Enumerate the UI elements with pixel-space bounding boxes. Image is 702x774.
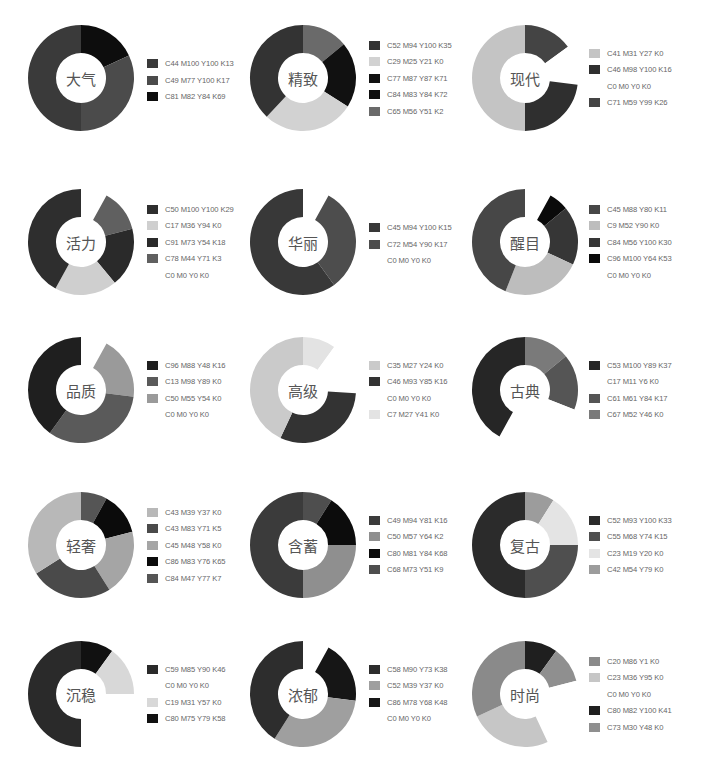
legend-item: C45 M48 Y58 K0 (147, 537, 225, 554)
legend-item: C43 M83 Y71 K5 (147, 520, 225, 537)
legend-label: C80 M82 Y100 K41 (607, 706, 672, 715)
donut-center-label: 华丽 (273, 232, 333, 253)
color-swatch (147, 698, 158, 707)
color-swatch (147, 557, 158, 566)
color-swatch (147, 361, 158, 370)
legend-item: C96 M88 Y48 K16 (147, 357, 225, 374)
legend-item: C49 M77 Y100 K17 (147, 72, 234, 89)
legend-item: C46 M98 Y100 K16 (589, 62, 672, 79)
donut-center-label: 浓郁 (273, 684, 333, 705)
color-swatch (147, 254, 158, 263)
legend-label: C50 M55 Y54 K0 (165, 394, 221, 403)
legend: C44 M100 Y100 K13C49 M77 Y100 K17C81 M82… (147, 55, 234, 105)
legend-item: C0 M0 Y0 K0 (147, 267, 234, 284)
color-swatch (369, 410, 380, 419)
legend: C49 M94 Y81 K16C50 M57 Y64 K2C80 M81 Y84… (369, 512, 447, 578)
legend-item: C0 M0 Y0 K0 (147, 678, 225, 695)
legend: C45 M94 Y100 K15C72 M54 Y90 K17C0 M0 Y0 … (369, 219, 452, 269)
legend-label: C80 M75 Y79 K58 (165, 714, 225, 723)
legend-item: C55 M68 Y74 K15 (589, 529, 672, 546)
legend-label: C84 M47 Y77 K7 (165, 574, 221, 583)
legend-label: C41 M31 Y27 K0 (607, 49, 663, 58)
legend-item: C7 M27 Y41 K0 (369, 407, 447, 424)
donut-center-label: 时尚 (495, 684, 555, 705)
legend-label: C53 M100 Y89 K37 (607, 361, 672, 370)
legend-item: C50 M55 Y54 K0 (147, 390, 225, 407)
donut-center-label: 现代 (495, 68, 555, 89)
legend-label: C19 M31 Y57 K0 (165, 698, 221, 707)
color-swatch (589, 532, 600, 541)
legend: C20 M86 Y1 K0C23 M36 Y95 K0C0 M0 Y0 K0C8… (589, 653, 672, 736)
legend-label: C78 M44 Y71 K3 (165, 254, 221, 263)
legend-item: C84 M47 Y77 K7 (147, 570, 225, 587)
legend-item: C13 M98 Y89 K0 (147, 374, 225, 391)
legend-item: C29 M25 Y21 K0 (369, 53, 452, 70)
legend-label: C45 M48 Y58 K0 (165, 541, 221, 550)
legend-label: C0 M0 Y0 K0 (387, 714, 431, 723)
legend-item: C53 M100 Y89 K37 (589, 357, 672, 374)
legend-item: C41 M31 Y27 K0 (589, 45, 672, 62)
color-swatch (589, 565, 600, 574)
legend-item: C42 M54 Y79 K0 (589, 562, 672, 579)
legend-item: C9 M52 Y90 K0 (589, 217, 672, 234)
color-swatch (369, 361, 380, 370)
legend-label: C13 M98 Y89 K0 (165, 377, 221, 386)
legend-label: C46 M93 Y85 K16 (387, 377, 447, 386)
legend-item: C44 M100 Y100 K13 (147, 55, 234, 72)
legend: C35 M27 Y24 K0C46 M93 Y85 K16C0 M0 Y0 K0… (369, 357, 447, 423)
legend-label: C29 M25 Y21 K0 (387, 57, 443, 66)
color-swatch (369, 516, 380, 525)
legend-item: C23 M19 Y20 K0 (589, 545, 672, 562)
color-swatch (147, 221, 158, 230)
legend-item: C50 M57 Y64 K2 (369, 529, 447, 546)
legend-item: C52 M94 Y100 K35 (369, 37, 452, 54)
legend-item: C58 M90 Y73 K38 (369, 661, 447, 678)
legend-label: C77 M87 Y87 K71 (387, 74, 447, 83)
legend-label: C84 M83 Y84 K72 (387, 90, 447, 99)
legend-label: C49 M94 Y81 K16 (387, 516, 447, 525)
legend-label: C67 M52 Y46 K0 (607, 410, 663, 419)
legend-item: C45 M94 Y100 K15 (369, 219, 452, 236)
color-swatch (369, 565, 380, 574)
legend-label: C71 M59 Y99 K26 (607, 98, 667, 107)
color-swatch (147, 524, 158, 533)
legend-label: C50 M57 Y64 K2 (387, 532, 443, 541)
legend-item: C52 M39 Y37 K0 (369, 678, 447, 695)
legend-label: C65 M56 Y51 K2 (387, 107, 443, 116)
color-swatch (147, 76, 158, 85)
legend: C43 M39 Y37 K0C43 M83 Y71 K5C45 M48 Y58 … (147, 504, 225, 587)
legend-item: C71 M59 Y99 K26 (589, 95, 672, 112)
legend-label: C0 M0 Y0 K0 (165, 681, 209, 690)
donut-center-label: 精致 (273, 68, 333, 89)
legend-label: C46 M98 Y100 K16 (607, 65, 672, 74)
donut-center-label: 活力 (51, 232, 111, 253)
color-swatch (369, 90, 380, 99)
legend-item: C61 M61 Y84 K17 (589, 390, 672, 407)
legend-label: C49 M77 Y100 K17 (165, 76, 230, 85)
legend: C45 M88 Y80 K11C9 M52 Y90 K0C84 M56 Y100… (589, 201, 672, 284)
color-swatch (589, 673, 600, 682)
legend-label: C23 M19 Y20 K0 (607, 549, 663, 558)
legend-label: C50 M100 Y100 K29 (165, 205, 234, 214)
legend-item: C73 M30 Y48 K0 (589, 719, 672, 736)
legend-item: C65 M56 Y51 K2 (369, 103, 452, 120)
legend-label: C86 M78 Y68 K48 (387, 698, 447, 707)
color-swatch (589, 238, 600, 247)
color-swatch (589, 205, 600, 214)
legend-label: C23 M36 Y95 K0 (607, 673, 663, 682)
donut-slice (28, 492, 81, 573)
legend-label: C42 M54 Y79 K0 (607, 565, 663, 574)
legend-item: C67 M52 Y46 K0 (589, 407, 672, 424)
color-swatch (147, 574, 158, 583)
color-swatch (369, 377, 380, 386)
legend-item: C50 M100 Y100 K29 (147, 201, 234, 218)
legend-item: C80 M81 Y84 K68 (369, 545, 447, 562)
legend-label: C35 M27 Y24 K0 (387, 361, 443, 370)
legend-item: C0 M0 Y0 K0 (369, 711, 447, 728)
legend-label: C86 M83 Y76 K65 (165, 557, 225, 566)
color-swatch (589, 394, 600, 403)
color-swatch (369, 74, 380, 83)
donut-center-label: 醒目 (495, 232, 555, 253)
donut-center-label: 复古 (495, 535, 555, 556)
color-swatch (147, 92, 158, 101)
